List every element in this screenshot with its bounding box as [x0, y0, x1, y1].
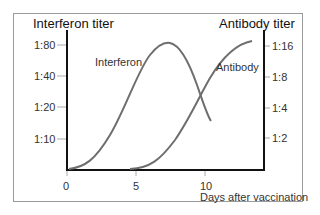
interferon-label: Interferon [95, 57, 142, 68]
y-tick-1-10: 1:10 [34, 134, 55, 145]
right-tick-marks [265, 46, 270, 138]
y-tick-1-20: 1:20 [34, 102, 55, 113]
y-tick-1-80: 1:80 [34, 40, 55, 51]
x-tick-5: 5 [133, 181, 139, 192]
right-axis-title: Antibody titer [219, 17, 295, 30]
y2-tick-1-8: 1:8 [272, 72, 287, 83]
left-axis-title: Interferon titer [33, 17, 114, 30]
x-tick-0: 0 [63, 181, 69, 192]
x-axis-title: Days after vaccination [200, 192, 308, 203]
antibody-label: Antibody [216, 62, 259, 73]
left-tick-marks [57, 45, 66, 139]
y-tick-1-40: 1:40 [34, 71, 55, 82]
y2-tick-1-2: 1:2 [272, 133, 287, 144]
y2-tick-1-16: 1:16 [272, 41, 293, 52]
x-tick-marks [67, 171, 205, 176]
y2-tick-1-4: 1:4 [272, 103, 287, 114]
